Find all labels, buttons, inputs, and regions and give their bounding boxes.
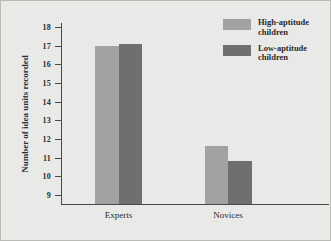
bar-novices-high-aptitude bbox=[205, 146, 229, 204]
legend-item: High-aptitude children bbox=[223, 18, 327, 38]
x-axis-line bbox=[61, 204, 329, 205]
x-axis-label-experts: Experts bbox=[105, 210, 133, 220]
y-axis-tick bbox=[55, 46, 61, 47]
y-axis-tick-label: 12 bbox=[29, 135, 51, 144]
y-axis-tick bbox=[55, 64, 61, 65]
y-axis-tick-label: 17 bbox=[29, 41, 51, 50]
legend-swatch-low-aptitude bbox=[223, 45, 251, 56]
bar-experts-low-aptitude bbox=[119, 44, 143, 204]
bar-experts-high-aptitude bbox=[95, 46, 119, 204]
y-axis-tick bbox=[55, 27, 61, 28]
y-axis-tick bbox=[55, 120, 61, 121]
y-axis-tick bbox=[55, 139, 61, 140]
legend-label: High-aptitude children bbox=[258, 18, 309, 38]
y-axis-tick bbox=[55, 83, 61, 84]
y-axis-tick-label: 11 bbox=[29, 153, 51, 162]
y-axis-tick-label: 16 bbox=[29, 60, 51, 69]
y-axis-tick-label: 18 bbox=[29, 23, 51, 32]
x-axis-label-novices: Novices bbox=[213, 210, 243, 220]
legend-swatch-high-aptitude bbox=[223, 19, 251, 30]
y-axis-tick bbox=[55, 158, 61, 159]
chart-legend: High-aptitude childrenLow-aptitude child… bbox=[223, 18, 327, 69]
y-axis-tick bbox=[55, 176, 61, 177]
bar-novices-low-aptitude bbox=[228, 161, 252, 204]
legend-label: Low-aptitude children bbox=[258, 44, 307, 64]
y-axis-tick-label: 15 bbox=[29, 79, 51, 88]
y-axis-tick-label: 14 bbox=[29, 97, 51, 106]
y-axis-tick bbox=[55, 102, 61, 103]
y-axis-title: Number of idea units recorded bbox=[20, 24, 30, 204]
y-axis-tick-label: 13 bbox=[29, 116, 51, 125]
legend-item: Low-aptitude children bbox=[223, 44, 327, 64]
bar-chart-figure: 1817161514131211109 ExpertsNovices Numbe… bbox=[0, 0, 331, 241]
y-axis-tick bbox=[55, 195, 61, 196]
y-axis-tick-label: 9 bbox=[29, 191, 51, 200]
y-axis-tick-label: 10 bbox=[29, 172, 51, 181]
